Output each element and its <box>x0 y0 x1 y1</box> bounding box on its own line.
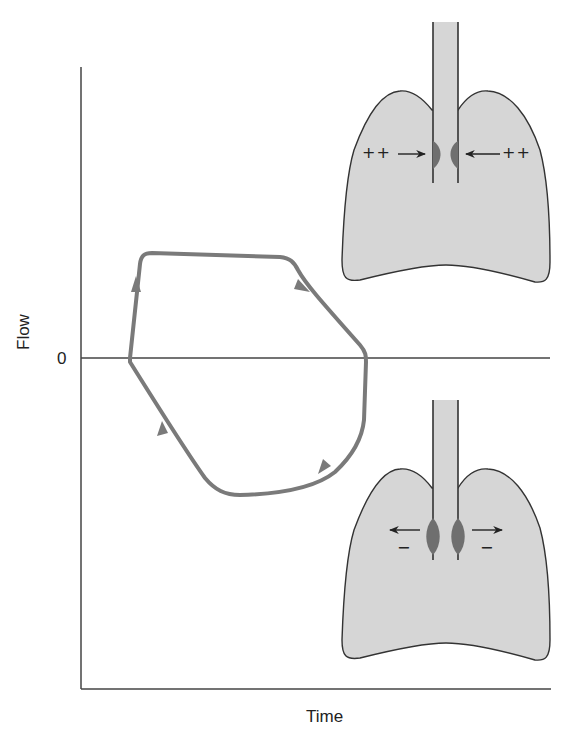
flow-loop <box>130 253 366 495</box>
upper-right-pressure-label: ++ <box>502 143 531 162</box>
lower-lung-diagram <box>342 400 550 660</box>
upper-left-pressure-label: ++ <box>362 143 391 162</box>
flow-loop-diagram <box>0 0 580 730</box>
y-axis-label: Flow <box>14 314 34 350</box>
flow-loop-curve <box>130 253 366 495</box>
lower-right-pressure-label: − <box>480 538 493 557</box>
x-axis-label: Time <box>306 707 343 727</box>
zero-tick-label: 0 <box>57 349 66 369</box>
loop-arrow-down-right-lower <box>318 459 331 474</box>
lower-left-pressure-label: − <box>397 538 410 557</box>
